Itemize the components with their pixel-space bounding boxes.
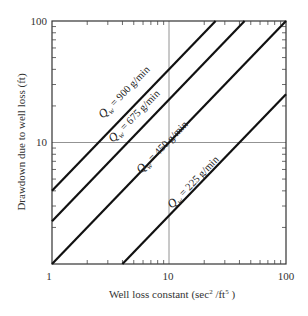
label-q-225: Qw = 225 g/min <box>164 152 223 213</box>
x-tick-1: 1 <box>46 270 52 282</box>
x-tick-10: 10 <box>163 270 175 282</box>
y-tick-10: 10 <box>36 136 48 148</box>
line-q-675 <box>52 21 245 221</box>
y-tick-100: 100 <box>31 15 48 27</box>
label-q-900: Qw = 900 g/min <box>95 62 154 123</box>
label-q-450: Qw = 450 g/min <box>133 117 192 178</box>
x-tick-100: 100 <box>278 270 295 282</box>
x-axis-label: Well loss constant (sec2 /ft5 ) <box>109 288 236 301</box>
line-q-225 <box>122 94 286 264</box>
y-axis-label: Drawdown due to well loss (ft) <box>15 73 28 211</box>
drawdown-chart: Qw = 900 g/min Qw = 675 g/min Qw = 450 g… <box>0 0 308 316</box>
